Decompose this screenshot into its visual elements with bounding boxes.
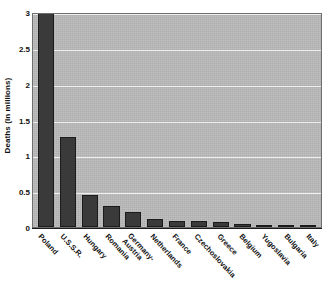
x-axis-line <box>32 228 322 229</box>
x-axis-label-slot: France <box>166 230 188 290</box>
y-axis-tick-label: 0.5 <box>12 188 30 197</box>
bar[interactable] <box>82 195 98 227</box>
x-axis-label-slot: Germany- Austria <box>121 230 143 290</box>
bar-slot <box>253 14 275 227</box>
x-axis-label-slot: Netherlands <box>144 230 166 290</box>
y-axis-tick-labels: 00.511.522.53 <box>12 8 30 232</box>
x-axis-label-slot: U.S.S.R. <box>54 230 76 290</box>
bar-slot <box>122 14 144 227</box>
x-axis-label-slot: Hungary <box>77 230 99 290</box>
bar-slot <box>79 14 101 227</box>
bar-slot <box>232 14 254 227</box>
bar[interactable] <box>256 225 272 227</box>
bar[interactable] <box>191 221 207 227</box>
plot-area <box>32 13 322 228</box>
y-axis-tick-label: 1.5 <box>12 116 30 125</box>
bar-slot <box>35 14 57 227</box>
bar-slot <box>57 14 79 227</box>
bar[interactable] <box>300 225 316 227</box>
x-axis-label-slot: Poland <box>32 230 54 290</box>
x-axis-label-slot: Czechoslovakia <box>188 230 210 290</box>
bars-layer <box>33 14 321 227</box>
bar-slot <box>210 14 232 227</box>
y-axis-tick-label: 1 <box>12 152 30 161</box>
bar[interactable] <box>169 221 185 227</box>
bar[interactable] <box>213 222 229 227</box>
bar-slot <box>188 14 210 227</box>
x-axis-category-labels: PolandU.S.S.R.HungaryRomaniaGermany- Aus… <box>32 230 322 290</box>
bar-slot <box>166 14 188 227</box>
bar-slot <box>144 14 166 227</box>
x-axis-label-slot: Yugoslavia <box>255 230 277 290</box>
y-axis-tick-label: 2 <box>12 80 30 89</box>
bar[interactable] <box>60 137 76 227</box>
x-axis-category-label: Italy <box>304 232 321 249</box>
x-axis-label-slot: Bulgaria <box>277 230 299 290</box>
x-axis-label-slot: Italy <box>300 230 322 290</box>
bar-chart: Deaths (in millions) 00.511.522.53 Polan… <box>0 0 336 291</box>
bar[interactable] <box>147 219 163 227</box>
bar-slot <box>101 14 123 227</box>
bar[interactable] <box>38 13 54 227</box>
bar[interactable] <box>278 225 294 227</box>
y-axis-tick-label: 3 <box>12 9 30 18</box>
x-axis-label-slot: Greece <box>211 230 233 290</box>
y-axis-tick-label: 0 <box>12 224 30 233</box>
bar[interactable] <box>103 206 119 228</box>
x-axis-label-slot: Romania <box>99 230 121 290</box>
bar[interactable] <box>125 212 141 227</box>
bar-slot <box>297 14 319 227</box>
x-axis-label-slot: Belgium <box>233 230 255 290</box>
y-axis-tick-label: 2.5 <box>12 44 30 53</box>
bar-slot <box>275 14 297 227</box>
bar[interactable] <box>234 224 250 227</box>
